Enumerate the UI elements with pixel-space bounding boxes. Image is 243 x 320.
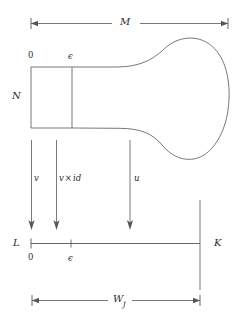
line-origin-label: 0 xyxy=(28,253,33,262)
top-dimension-left-arrowhead xyxy=(31,21,38,26)
line-left-label: L xyxy=(13,238,20,248)
top-dimension-right-arrowhead xyxy=(221,21,228,26)
bottom-dimension-label: WJ xyxy=(113,294,126,306)
times-operator-icon: × xyxy=(64,173,73,183)
figure-canvas: M 0 ϵ N v v×id u L K 0 ϵ WJ xyxy=(0,0,243,320)
bottom-dimension-left-arrowhead xyxy=(32,298,39,303)
arrow-group xyxy=(28,140,133,230)
arrow-v-times-id-label: v×id xyxy=(59,174,81,183)
bottom-dimension-subscript: J xyxy=(123,300,126,309)
arrow-u-label: u xyxy=(134,174,139,183)
bottom-dimension-base: W xyxy=(113,293,123,304)
line-right-label: K xyxy=(214,238,221,248)
line-epsilon-label: ϵ xyxy=(68,254,73,263)
box-origin-label: 0 xyxy=(28,51,33,60)
bottom-dimension-right-arrowhead xyxy=(193,298,200,303)
flask-outline-path xyxy=(72,38,229,159)
box-height-label: N xyxy=(12,91,21,101)
arrow-v-times-id-arg: id xyxy=(73,173,81,183)
top-dimension-label: M xyxy=(120,17,130,27)
arrow-v-label: v xyxy=(34,174,39,183)
figure-vector-layer xyxy=(0,0,243,320)
box-epsilon-label: ϵ xyxy=(68,52,73,61)
